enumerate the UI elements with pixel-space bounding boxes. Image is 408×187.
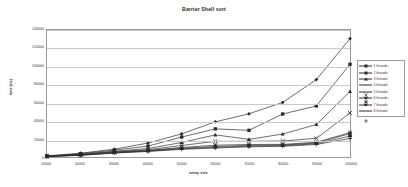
legend-label: 2 threads — [372, 71, 388, 75]
data-point-cross — [348, 111, 352, 115]
data-point-triangle — [213, 133, 217, 137]
y-tick-label: 80000 — [34, 82, 44, 86]
y-tick-label: 140000 — [32, 27, 44, 31]
y-tick-label: 100000 — [32, 64, 44, 68]
data-point-square — [281, 112, 284, 115]
gridline — [47, 30, 350, 31]
legend-item-8-threads[interactable]: 8 threads — [359, 108, 403, 114]
gridline — [47, 85, 350, 86]
x-tick-label: 30000 — [109, 162, 119, 166]
legend-label: 8 threads — [372, 109, 388, 113]
legend-swatch-triangle-icon — [359, 76, 372, 82]
y-axis-ticks: 020000400006000080000100000120000140000 — [14, 29, 44, 158]
y-tick-label: 20000 — [34, 138, 44, 142]
gridline — [47, 122, 350, 123]
legend-label: 4 threads — [372, 83, 388, 87]
legend-swatch-diamond-icon — [359, 63, 372, 69]
data-point-circle — [348, 132, 351, 135]
data-point-square — [315, 104, 318, 107]
y-tick-label: 0 — [42, 156, 44, 160]
legend-label: 6 threads — [372, 96, 388, 100]
y-axis-label: time (ms) — [9, 67, 13, 107]
x-axis-label: array size — [46, 170, 351, 175]
data-point-square — [180, 135, 183, 138]
x-tick-label: 90000 — [312, 162, 322, 166]
x-tick-label: 70000 — [244, 162, 254, 166]
legend-label: 7 threads — [372, 103, 388, 107]
y-tick-label: 40000 — [34, 119, 44, 123]
y-tick-label: 60000 — [34, 101, 44, 105]
x-tick-label: 40000 — [143, 162, 153, 166]
y-tick-label: 120000 — [32, 45, 44, 49]
x-tick-label: 20000 — [75, 162, 85, 166]
legend-swatch-cross-icon — [359, 82, 372, 88]
x-tick-label: 50000 — [177, 162, 187, 166]
chart-container: Barrier Shell sort time (ms) 02000040000… — [0, 0, 408, 187]
legend-label: 3 threads — [372, 77, 388, 81]
legend-swatch-star-icon — [359, 89, 372, 95]
legend-swatch-bar-icon — [359, 102, 372, 108]
gridline — [47, 48, 350, 49]
gridline — [47, 67, 350, 68]
data-point-triangle — [348, 89, 352, 93]
legend-swatch-circle-icon — [359, 95, 372, 101]
legend-label: 1 threads — [372, 64, 388, 68]
x-tick-label: 80000 — [278, 162, 288, 166]
gridline — [47, 141, 350, 142]
series-line — [47, 64, 350, 156]
series-line — [47, 113, 350, 156]
x-axis-ticks: 1000020000300004000050000600007000080000… — [46, 162, 351, 170]
x-tick-label: 10000 — [41, 162, 51, 166]
series-4-threads — [45, 111, 352, 158]
data-point-square — [214, 127, 217, 130]
x-tick-label: 100000 — [345, 162, 357, 166]
series-line — [47, 39, 350, 156]
plot-area — [46, 29, 351, 158]
data-point-diamond — [180, 132, 184, 136]
legend-label: 5 threads — [372, 90, 388, 94]
chart-title: Barrier Shell sort — [0, 6, 408, 12]
gridline — [47, 104, 350, 105]
data-point-diamond — [247, 112, 251, 116]
legend-swatch-square-icon — [359, 70, 372, 76]
data-point-square — [247, 129, 250, 132]
data-point-diamond — [146, 141, 150, 145]
x-tick-label: 60000 — [210, 162, 220, 166]
legend-swatch-plus-icon — [359, 108, 372, 114]
chart-legend: 1 threads2 threads3 threads4 threads5 th… — [357, 60, 405, 117]
data-point-square — [348, 63, 351, 66]
